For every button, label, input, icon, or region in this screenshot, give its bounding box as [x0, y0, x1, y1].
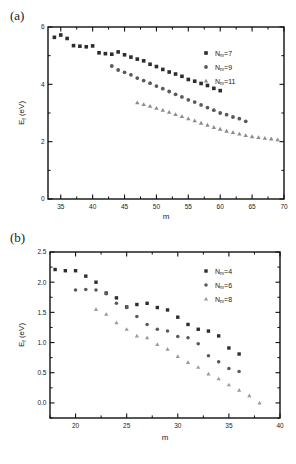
data-point	[218, 127, 222, 131]
data-point	[145, 302, 148, 305]
y-tick-label: 4	[41, 81, 45, 88]
y-axis-title-text: Ef (eV)	[17, 323, 27, 347]
data-point	[186, 323, 189, 326]
legend-label-tail: =8	[224, 296, 232, 303]
data-point	[123, 70, 127, 74]
data-point	[142, 59, 146, 63]
legend-label-tail: =9	[224, 64, 232, 71]
data-point	[237, 388, 241, 392]
data-point	[165, 347, 169, 351]
data-point	[135, 315, 139, 319]
data-point	[135, 76, 139, 80]
data-point	[125, 306, 129, 310]
x-tick-label: 30	[174, 422, 182, 429]
data-point	[243, 133, 247, 137]
data-point	[225, 113, 229, 117]
x-tick-label: 50	[153, 203, 161, 210]
panel-b-plot: 20253035400.00.51.01.52.02.5mEf (eV)Nm=4…	[0, 228, 296, 464]
data-point	[125, 327, 129, 331]
data-point	[104, 292, 108, 296]
data-point	[155, 342, 159, 346]
data-point	[154, 106, 158, 110]
x-tick-label: 40	[276, 422, 284, 429]
data-point	[199, 103, 203, 107]
data-point	[167, 90, 171, 94]
x-tick-label: 65	[248, 203, 256, 210]
data-point	[193, 100, 197, 104]
data-point	[227, 346, 230, 349]
data-point	[84, 45, 88, 49]
data-point	[199, 82, 203, 86]
data-point	[84, 274, 87, 277]
data-point	[135, 57, 139, 61]
data-point	[212, 125, 216, 129]
data-point	[263, 136, 267, 140]
data-point	[186, 98, 190, 102]
data-point	[115, 302, 119, 306]
data-point	[148, 81, 152, 85]
data-point	[186, 117, 190, 121]
series-1-points	[53, 33, 222, 92]
panel-a-plot: 35404550556065700246mEf (eV)Nm=7Nm=9Nm=1…	[0, 0, 296, 232]
data-point	[244, 119, 248, 123]
x-tick-label: 35	[225, 422, 233, 429]
data-point	[205, 123, 209, 127]
data-point	[161, 87, 165, 91]
data-point	[176, 354, 180, 358]
data-point	[212, 108, 216, 112]
panel-b: (b) 20253035400.00.51.01.52.02.5mEf (eV)…	[0, 228, 296, 464]
data-point	[180, 114, 184, 118]
legend-marker	[204, 65, 208, 69]
legend-label: Nm=8	[215, 296, 232, 305]
panel-a: (a) 35404550556065700246mEf (eV)Nm=7Nm=9…	[0, 0, 296, 232]
legend-label-tail: =11	[224, 78, 235, 85]
data-point	[114, 321, 118, 325]
data-point	[116, 50, 120, 54]
legend-label: Nm=6	[215, 282, 232, 291]
data-point	[237, 370, 241, 374]
data-point	[196, 365, 200, 369]
data-point	[148, 104, 152, 108]
x-axis-title: m	[163, 212, 170, 221]
data-point	[94, 307, 98, 311]
data-point	[256, 135, 260, 139]
data-point	[197, 328, 200, 331]
data-point	[192, 119, 196, 123]
data-point	[65, 37, 69, 41]
y-tick-label: 0.5	[37, 369, 46, 376]
legend-marker	[204, 269, 207, 272]
data-point	[155, 84, 159, 88]
legend-marker	[204, 79, 208, 83]
y-tick-label: 0	[41, 195, 45, 202]
data-point	[94, 280, 97, 283]
data-point	[218, 111, 222, 115]
data-point	[231, 130, 235, 134]
y-axis-title-text: Ef (eV)	[17, 101, 27, 125]
data-point	[74, 269, 77, 272]
legend-label-tail: =7	[224, 50, 232, 57]
legend: Nm=7Nm=9Nm=11	[204, 50, 236, 87]
x-tick-label: 20	[72, 422, 80, 429]
data-point	[212, 87, 216, 91]
data-point	[167, 110, 171, 114]
legend-marker	[204, 297, 208, 301]
data-point	[155, 65, 159, 69]
x-tick-label: 40	[89, 203, 97, 210]
data-point	[180, 95, 184, 99]
x-axis-title: m	[162, 433, 169, 442]
data-point	[257, 401, 261, 405]
legend-marker	[204, 283, 208, 287]
y-tick-label: 1.5	[37, 309, 46, 316]
data-point	[174, 92, 178, 96]
data-point	[217, 377, 221, 381]
series-3-points	[94, 307, 262, 404]
data-point	[237, 132, 241, 136]
data-point	[72, 44, 76, 48]
data-point	[176, 315, 179, 318]
data-point	[141, 102, 145, 106]
data-point	[135, 100, 139, 104]
data-point	[78, 44, 82, 48]
data-point	[227, 383, 231, 387]
x-tick-label: 45	[121, 203, 129, 210]
data-point	[275, 137, 279, 141]
